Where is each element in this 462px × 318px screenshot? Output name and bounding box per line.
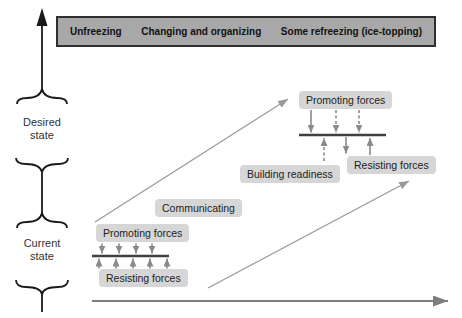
force-field-diagram: Unfreezing Changing and organizing Some … [0,0,462,318]
building-readiness-box: Building readiness [240,165,340,183]
resisting-arrows-lower [99,259,167,269]
current-state-label: Current state [12,237,72,263]
current-state-brace-bottom [16,280,68,294]
phase-label-unfreezing: Unfreezing [70,26,122,37]
phase-label-changing: Changing and organizing [141,26,261,37]
desired-state-label: Desired state [12,116,72,142]
phase-banner: Unfreezing Changing and organizing Some … [56,16,436,47]
diagonal-arrow-to-upper-resisting [208,181,409,288]
upper-promoting-forces-box: Promoting forces [299,91,392,109]
current-state-brace-top [17,213,67,228]
lower-resisting-forces-box: Resisting forces [99,269,188,287]
promoting-arrows-lower [102,244,152,254]
upper-resisting-forces-box: Resisting forces [347,156,436,174]
phase-label-refreezing: Some refreezing (ice-topping) [281,26,422,37]
desired-state-brace-top [17,89,67,104]
vertical-state-axis [16,8,68,312]
desired-state-brace-bottom [16,158,68,172]
promoting-arrows-upper [311,110,359,133]
lower-promoting-forces-box: Promoting forces [96,224,189,242]
communicating-box: Communicating [155,199,242,217]
